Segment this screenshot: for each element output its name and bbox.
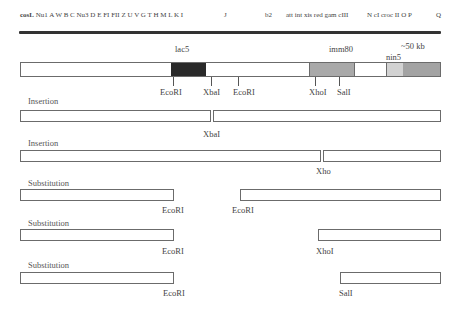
tick-ecori-2 xyxy=(238,77,239,86)
construct-1-site: XbaI xyxy=(203,129,220,139)
gene-b2: b2 xyxy=(265,11,272,19)
label-nin5: nin5 xyxy=(386,52,401,62)
region-imm80 xyxy=(309,63,355,76)
construct-2-right-arm xyxy=(323,150,441,162)
construct-3-right-site: EcoRI xyxy=(232,205,254,215)
genes-right: N cI croc II O P xyxy=(367,11,412,19)
construct-4-title: Substitution xyxy=(28,218,69,228)
construct-4-right-site: XhoI xyxy=(316,246,333,256)
site-xbai: XbaI xyxy=(203,87,220,97)
genes-left: Nu1 A W B C Nu3 D E FI FII Z U V G T H M… xyxy=(36,11,183,19)
gene-labels: cosL Nu1 A W B C Nu3 D E FI FII Z U V G … xyxy=(20,11,183,19)
region-lac5 xyxy=(171,63,206,76)
tick-ecori-1 xyxy=(173,77,174,86)
gene-cosL: cosL xyxy=(20,11,34,19)
construct-2-site: Xho xyxy=(316,166,331,176)
construct-1-right-arm xyxy=(213,110,441,122)
construct-3-left-site: EcoRI xyxy=(162,205,184,215)
construct-4-left-arm xyxy=(20,229,174,241)
construct-4-right-arm xyxy=(318,229,441,241)
construct-2-title: Insertion xyxy=(28,138,58,148)
site-ecori-1: EcoRI xyxy=(160,87,182,97)
vector-map-bar xyxy=(20,62,441,77)
construct-5-right-arm xyxy=(340,272,441,284)
site-sali: SalI xyxy=(337,87,351,97)
construct-2-left-arm xyxy=(20,150,321,162)
region-right-arm xyxy=(403,63,440,76)
label-imm80: imm80 xyxy=(329,44,353,54)
genome-rule xyxy=(19,31,441,34)
construct-3-left-arm xyxy=(20,189,174,201)
construct-1-left-arm xyxy=(20,110,211,122)
site-ecori-2: EcoRI xyxy=(233,87,255,97)
construct-3-right-arm xyxy=(240,189,441,201)
genes-mid: att int xis red gam cIII xyxy=(286,11,348,19)
construct-5-left-arm xyxy=(20,272,174,284)
tick-xbai xyxy=(211,77,212,86)
gene-J: J xyxy=(224,11,227,19)
construct-5-right-site: SalI xyxy=(339,288,353,298)
site-xhoi: XhoI xyxy=(309,87,326,97)
construct-4-left-site: EcoRI xyxy=(162,246,184,256)
label-size: ~50 kb xyxy=(401,41,425,51)
construct-1-title: Insertion xyxy=(28,96,58,106)
construct-5-left-site: EcoRI xyxy=(163,288,185,298)
gene-Q: Q xyxy=(436,11,441,19)
construct-5-title: Substitution xyxy=(28,260,69,270)
construct-3-title: Substitution xyxy=(28,178,69,188)
tick-sali xyxy=(339,77,340,86)
tick-xhoi xyxy=(315,77,316,86)
label-lac5: lac5 xyxy=(175,44,189,54)
